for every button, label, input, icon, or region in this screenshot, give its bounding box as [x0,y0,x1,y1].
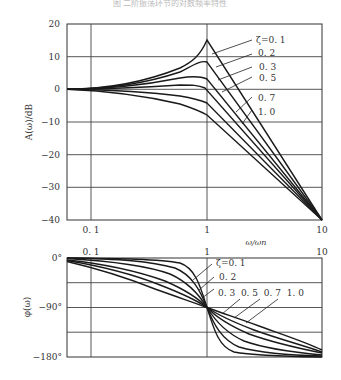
y-tick: −40 [41,215,60,225]
legend-label: 0. 2 [219,272,236,282]
curve-zeta-0.1 [67,40,322,220]
x-tick: 1 [204,225,210,235]
y-tick: −180° [33,352,62,362]
magnitude-curves [67,40,322,220]
magnitude-legend: ζ=0. 1 0. 2 0. 3 0. 5 0. 7 1. 0 [212,35,286,124]
legend-label: 0. 2 [258,48,275,58]
legend-label: 0. 7 [258,93,275,103]
y-tick: −90° [39,302,63,312]
phase-grid [67,258,322,357]
curve-zeta-0.2 [67,258,322,356]
x-axis-label: ω/ωn [246,238,267,247]
magnitude-grid [67,24,322,220]
y-axis-label: φ(ω) [22,297,32,318]
y-tick: 10 [49,52,61,62]
y-tick: 0 [54,84,60,94]
x-tick: 10 [316,225,328,235]
y-tick: 0° [52,253,62,263]
phase-chart: 0. 1 1 10 0° −90° −180° φ(ω) ζ=0. 1 0. 2… [22,247,328,362]
y-tick: −20 [41,150,60,160]
magnitude-chart: 20 10 0 −10 −20 −30 −40 A(ω)/dB 0. 1 1 1… [24,19,328,247]
y-axis-label: A(ω)/dB [24,103,34,141]
figure-caption: 图 二阶振荡环节的对数频率特性 [113,0,228,8]
y-tick: −10 [41,117,60,127]
legend-label: 0. 5 [259,73,276,83]
y-tick: 20 [49,19,61,29]
legend-label: 0. 3 [259,62,276,72]
legend-label: 1. 0 [258,107,275,117]
bode-plot: 图 二阶振荡环节的对数频率特性 20 10 0 −10 −20 −30 −40 … [0,0,341,380]
x-tick: 10 [316,247,328,257]
x-tick: 0. 1 [82,247,99,257]
legend-label: ζ=0. 1 [216,258,246,268]
curve-zeta-0.5 [67,85,322,220]
curve-zeta-0.3 [67,77,322,220]
legend-label: 0. 3 0. 5 0. 7 1. 0 [218,288,304,298]
y-tick: −30 [41,182,60,192]
x-tick: 0. 1 [82,225,99,235]
x-tick: 1 [204,247,210,257]
legend-label: ζ=0. 1 [256,35,286,45]
